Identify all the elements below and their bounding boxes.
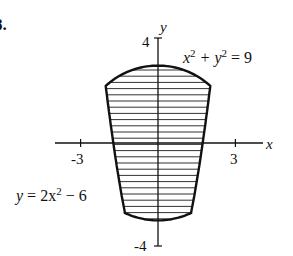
parabola-equation-label: y = 2x2 − 6 (14, 185, 87, 205)
y-tick-label-4: 4 (142, 34, 150, 50)
y-axis-label: y (158, 19, 167, 35)
region-graph: 8. x y -3 3 4 -4 x2 + y2 = 9 y = 2x2 − 6 (0, 0, 293, 256)
x-tick-label-neg3: -3 (71, 151, 84, 167)
x-axis-label: x (265, 136, 273, 152)
circle-equation-label: x2 + y2 = 9 (182, 47, 252, 67)
y-tick-label-neg4: -4 (134, 238, 147, 254)
x-tick-label-3: 3 (230, 151, 238, 167)
problem-number: 8. (0, 15, 7, 34)
